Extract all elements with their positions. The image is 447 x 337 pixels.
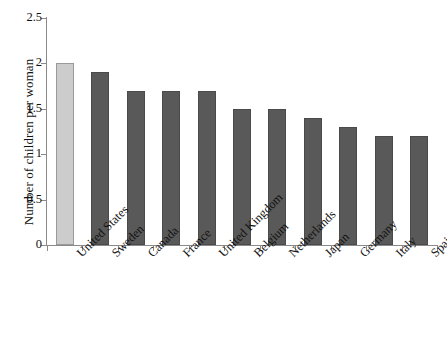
plot-area: 00.511.522.5 <box>47 18 437 245</box>
x-axis-category-label: Italy <box>393 250 404 261</box>
x-axis-tick-mark <box>47 245 48 251</box>
x-axis-category-label: France <box>180 250 191 261</box>
x-axis-category-label: Sweden <box>109 250 120 261</box>
y-axis-tick-label: 0.5 <box>26 192 42 207</box>
bar-chart: Number of children per woman 00.511.522.… <box>0 0 447 337</box>
x-axis-category-label: Germany <box>357 250 368 261</box>
x-axis-category-label: Japan <box>322 250 333 261</box>
y-axis-tick-label: 2 <box>36 55 42 70</box>
bar <box>162 91 180 245</box>
x-axis-category-label: United Kingdom <box>216 250 227 261</box>
y-axis-tick-label: 2.5 <box>26 10 42 25</box>
x-axis-category-label: Netherlands <box>286 250 297 261</box>
bar <box>339 127 357 245</box>
bar <box>198 91 216 245</box>
y-axis-tick-label: 1 <box>36 146 42 161</box>
y-axis-tick-label: 0 <box>36 237 42 252</box>
x-axis-category-label: Canada <box>145 250 156 261</box>
y-axis-title: Number of children per woman <box>21 37 37 247</box>
bar <box>410 136 428 245</box>
bar <box>56 63 74 245</box>
x-axis-category-label: United States <box>74 250 85 261</box>
x-axis-category-label: Belgium <box>251 250 262 261</box>
y-axis-tick-label: 1.5 <box>26 101 42 116</box>
x-axis-category-label: Spain <box>428 250 439 261</box>
